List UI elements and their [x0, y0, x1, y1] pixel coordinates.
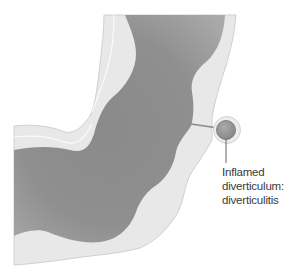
annotation-label: Inflamed diverticulum: diverticulitis: [222, 165, 284, 207]
annotation-line-3: diverticulitis: [222, 193, 284, 207]
annotation-line-2: diverticulum:: [222, 179, 284, 193]
colon-illustration: [0, 0, 286, 275]
inflamed-diverticulum: [217, 121, 236, 140]
annotation-line-1: Inflamed: [222, 165, 284, 179]
